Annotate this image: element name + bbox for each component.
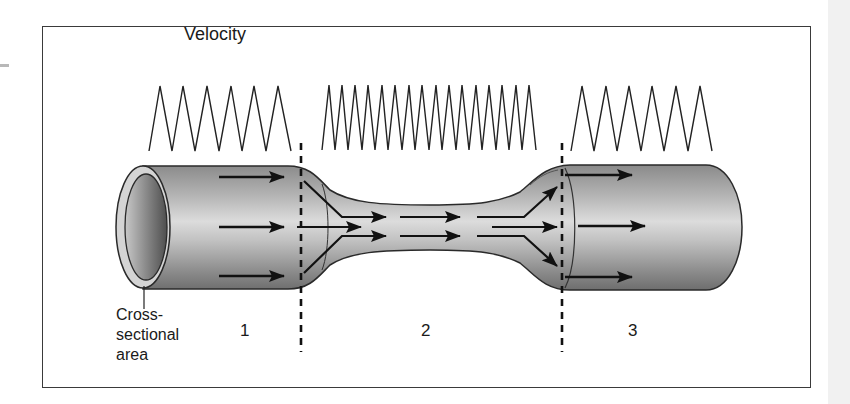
velocity-label: Velocity [184,24,246,45]
velocity-wave-section-1 [149,86,291,151]
velocity-wave-section-2 [322,85,536,150]
section-2-label: 2 [421,320,430,341]
section-3-label: 3 [628,320,637,341]
tube-opening-inner [125,174,167,280]
section-1-label: 1 [240,320,249,341]
velocity-wave-section-3 [571,86,712,151]
cross-sectional-area-label: Cross- sectional area [116,305,206,365]
